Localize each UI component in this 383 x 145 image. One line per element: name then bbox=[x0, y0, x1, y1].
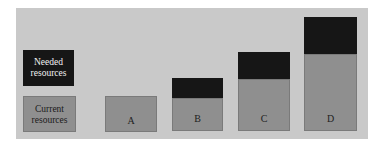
bar-c-label: C bbox=[239, 113, 289, 124]
legend-current-resources: Current resources bbox=[23, 96, 76, 132]
bar-a-label: A bbox=[106, 115, 156, 126]
legend-needed-label-line1: Needed bbox=[34, 57, 63, 67]
bar-d-needed bbox=[304, 17, 357, 55]
bar-b-current: B bbox=[172, 98, 223, 131]
bar-d-current: D bbox=[304, 54, 357, 131]
bar-b-label: B bbox=[173, 113, 222, 124]
legend-needed-resources: Needed resources bbox=[23, 50, 74, 86]
legend-current-label-line1: Current bbox=[35, 104, 64, 114]
legend-needed-label-line2: resources bbox=[31, 68, 67, 78]
bar-d-label: D bbox=[305, 113, 356, 124]
legend-current-label-line2: resources bbox=[32, 115, 68, 125]
bar-a-current: A bbox=[105, 96, 157, 132]
bar-b-needed bbox=[172, 78, 223, 98]
bar-c-needed bbox=[238, 52, 290, 80]
bar-c-current: C bbox=[238, 79, 290, 131]
